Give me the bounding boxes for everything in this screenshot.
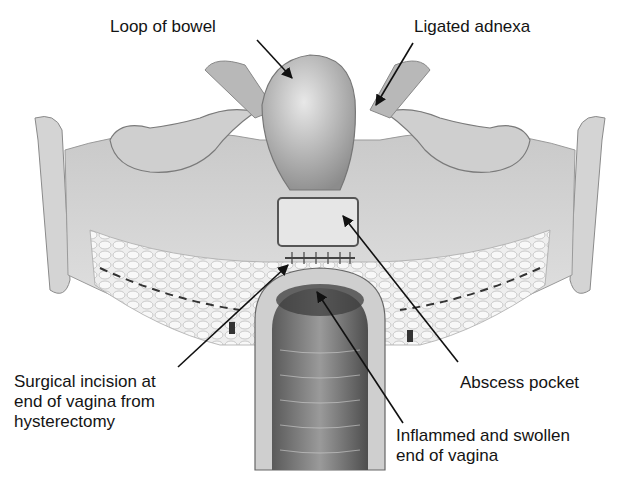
label-inflamed-end: Inflammed and swollen end of vagina (396, 426, 570, 466)
label-line: end of vagina (396, 446, 570, 466)
label-line: hysterectomy (14, 412, 156, 432)
label-loop-of-bowel: Loop of bowel (110, 17, 216, 37)
label-line: Surgical incision at (14, 372, 156, 392)
label-abscess-pocket: Abscess pocket (460, 373, 579, 393)
label-surgical-incision: Surgical incision at end of vagina from … (14, 372, 156, 432)
arrow-loop-of-bowel (257, 40, 292, 78)
abscess-pocket-shape (278, 198, 358, 246)
label-ligated-adnexa: Ligated adnexa (414, 17, 530, 37)
label-line: end of vagina from (14, 392, 156, 412)
label-line: Inflammed and swollen (396, 426, 570, 446)
left-pelvic-bone (35, 117, 70, 294)
right-pelvic-bone (570, 117, 605, 294)
